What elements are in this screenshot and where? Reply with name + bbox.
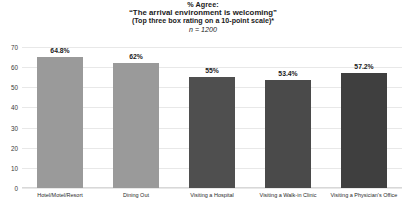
bar-slot: 53.4% xyxy=(250,47,326,188)
x-axis-category-label: Visiting a Walk-in Clinic xyxy=(260,192,317,198)
bar-value-label: 53.4% xyxy=(278,70,297,77)
y-axis-tick-label: 30 xyxy=(11,124,18,131)
bar xyxy=(265,80,311,188)
x-axis-category-label: Visiting a Physician's Office xyxy=(331,192,398,198)
bar-slot: 64.8% xyxy=(22,47,98,188)
bar xyxy=(189,77,235,188)
chart-title-block: % Agree: “The arrival environment is wel… xyxy=(0,1,406,34)
x-axis-labels: Hotel/Motel/ResortDining OutVisiting a H… xyxy=(22,192,402,204)
bar-slot: 62% xyxy=(98,47,174,188)
x-axis-category-label: Visiting a Hospital xyxy=(190,192,234,198)
bar xyxy=(341,73,387,188)
bar-value-label: 57.2% xyxy=(354,63,373,70)
gridline xyxy=(22,188,402,189)
y-axis-tick-label: 10 xyxy=(11,164,18,171)
bar xyxy=(113,63,159,188)
y-axis-tick-label: 20 xyxy=(11,144,18,151)
chart-subtitle: (Top three box rating on a 10-point scal… xyxy=(0,18,406,25)
y-axis-tick-label: 60 xyxy=(11,64,18,71)
bar xyxy=(37,57,83,188)
x-axis-category-label: Dining Out xyxy=(123,192,149,198)
y-axis-tick-label: 50 xyxy=(11,84,18,91)
y-axis-tick-label: 70 xyxy=(11,44,18,51)
chart-sample-size: n = 1200 xyxy=(0,27,406,34)
chart-container: % Agree: “The arrival environment is wel… xyxy=(0,0,406,213)
y-axis-tick-label: 0 xyxy=(14,185,18,192)
bar-value-label: 64.8% xyxy=(50,47,69,54)
bar-slot: 57.2% xyxy=(326,47,402,188)
bar-slot: 55% xyxy=(174,47,250,188)
bars-group: 64.8%62%55%53.4%57.2% xyxy=(22,47,402,188)
chart-title-statement: “The arrival environment is welcoming” xyxy=(0,9,406,17)
y-axis-tick-label: 40 xyxy=(11,104,18,111)
plot-area: 010203040506070 64.8%62%55%53.4%57.2% xyxy=(22,47,402,188)
chart-title-primary: % Agree: xyxy=(0,1,406,8)
x-axis-category-label: Hotel/Motel/Resort xyxy=(37,192,83,198)
bar-value-label: 62% xyxy=(129,53,143,60)
bar-value-label: 55% xyxy=(205,67,219,74)
